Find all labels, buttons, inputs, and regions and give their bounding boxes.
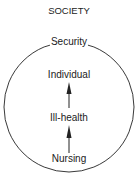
- security-label: Security: [50, 36, 88, 47]
- node-ill-health: Ill-health: [49, 112, 89, 123]
- diagram-canvas: [0, 0, 138, 176]
- node-individual: Individual: [47, 69, 91, 80]
- arrow-up-icon: [67, 82, 72, 108]
- society-title: SOCIETY: [47, 5, 91, 16]
- node-nursing: Nursing: [51, 153, 87, 164]
